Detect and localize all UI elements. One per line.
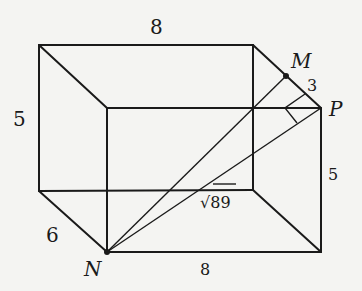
edge-depth-bottom-right bbox=[253, 190, 321, 252]
point-n bbox=[104, 249, 110, 255]
label-m: M bbox=[290, 49, 312, 73]
label-right-height: 5 bbox=[328, 165, 338, 184]
edge-depth-top-left bbox=[39, 45, 107, 108]
label-np-diagonal: √89 bbox=[200, 193, 231, 212]
label-depth: 6 bbox=[46, 223, 59, 247]
segment-nm bbox=[107, 76, 286, 252]
edge-back-bottom bbox=[39, 190, 253, 191]
label-left-height: 5 bbox=[13, 107, 26, 131]
segment-np bbox=[107, 108, 321, 252]
label-mp-segment: 3 bbox=[307, 76, 317, 95]
prism-diagram: M P N 8 5 5 6 8 3 √89 bbox=[0, 0, 362, 291]
label-p: P bbox=[328, 97, 343, 121]
point-m bbox=[283, 73, 289, 79]
label-top-length: 8 bbox=[150, 15, 163, 39]
label-bottom-length: 8 bbox=[200, 260, 210, 279]
label-n: N bbox=[83, 257, 103, 281]
